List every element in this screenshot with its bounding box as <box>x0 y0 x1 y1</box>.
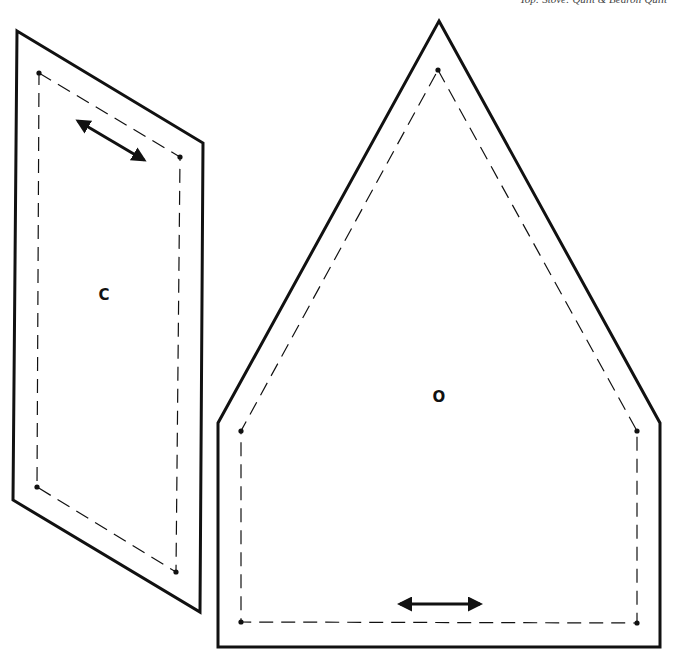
cut-line <box>218 21 660 647</box>
seam-line <box>241 70 637 623</box>
seam-dot <box>36 70 41 75</box>
seam-dot <box>634 428 639 433</box>
pattern-piece-c: C <box>13 31 203 612</box>
seam-line <box>37 73 180 572</box>
piece-label-o: O <box>433 388 446 406</box>
seam-dot <box>177 154 182 159</box>
pattern-piece-o: O <box>218 21 660 647</box>
grain-arrow-icon <box>78 121 144 160</box>
seam-corner-dots <box>238 67 639 625</box>
piece-label-c: C <box>98 286 109 304</box>
seam-dot <box>634 620 639 625</box>
seam-corner-dots <box>34 70 182 574</box>
cut-line <box>13 31 203 612</box>
pattern-canvas: C O <box>0 0 677 662</box>
seam-dot <box>173 569 178 574</box>
seam-dot <box>238 428 243 433</box>
seam-dot <box>238 619 243 624</box>
seam-dot <box>435 67 440 72</box>
seam-dot <box>34 484 39 489</box>
